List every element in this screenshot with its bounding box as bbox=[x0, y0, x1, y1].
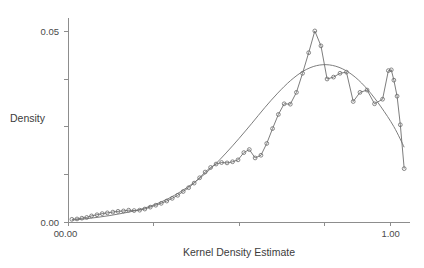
series-group bbox=[70, 29, 406, 221]
series-line-empirical-kernel-density bbox=[72, 31, 404, 219]
chart-canvas: 0.000.0500.001.00DensityKernel Density E… bbox=[0, 0, 424, 268]
kernel-density-chart: 0.000.0500.001.00DensityKernel Density E… bbox=[0, 0, 424, 268]
x-tick-label: 1.00 bbox=[381, 228, 400, 239]
y-axis-title: Density bbox=[10, 112, 46, 124]
y-tick-label: 0.05 bbox=[41, 26, 60, 37]
axes-group bbox=[64, 18, 410, 226]
x-tick-label: 0.00 bbox=[59, 228, 78, 239]
y-tick-label: 0.00 bbox=[41, 217, 60, 228]
x-axis-title: Kernel Density Estimate bbox=[183, 246, 295, 258]
series-line-smooth-fitted-density bbox=[72, 65, 404, 220]
